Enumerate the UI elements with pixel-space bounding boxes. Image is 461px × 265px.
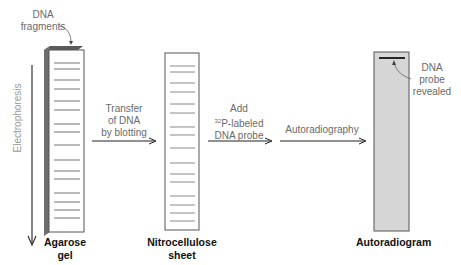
transfer-label: Transfer of DNA by blotting (96, 103, 152, 139)
transfer-line3: by blotting (96, 127, 152, 139)
gel-front-face (49, 50, 84, 232)
probe-line1: DNA (410, 62, 454, 74)
agarose-gel-caption: Agarose gel (40, 236, 90, 262)
dna-fragments-line2: fragments (18, 21, 68, 33)
agarose-line1: Agarose (40, 236, 90, 249)
transfer-line2: of DNA (96, 115, 152, 127)
probe-line3: revealed (410, 86, 454, 98)
agarose-gel (44, 46, 84, 236)
add-line1: Add (207, 103, 271, 115)
nitrocellulose-caption: Nitrocellulose sheet (147, 236, 217, 262)
add-line2: 32P-labeled (207, 115, 271, 130)
dna-fragments-label: DNA fragments (18, 9, 68, 33)
add-line2-rest: P-labeled (221, 118, 263, 129)
autoradiogram (374, 52, 409, 231)
nitrocellulose-sheet (165, 53, 199, 230)
add-line3: DNA probe (207, 130, 271, 142)
probe-revealed-label: DNA probe revealed (410, 62, 454, 98)
agarose-line2: gel (40, 249, 90, 262)
nitro-line2: sheet (147, 249, 217, 262)
autoradiography-label: Autoradiography (280, 124, 364, 136)
autoradiogram-caption: Autoradiogram (356, 236, 428, 249)
nitro-sheet-rect (165, 53, 199, 230)
electrophoresis-label: Electrophoresis (12, 68, 24, 168)
autoradiogram-rect (374, 52, 409, 231)
add-probe-label: Add 32P-labeled DNA probe (207, 103, 271, 142)
nitro-line1: Nitrocellulose (147, 236, 217, 249)
dna-fragments-line1: DNA (18, 9, 68, 21)
probe-line2: probe (410, 74, 454, 86)
dna-fragments-arrowhead-icon (69, 41, 73, 45)
transfer-line1: Transfer (96, 103, 152, 115)
